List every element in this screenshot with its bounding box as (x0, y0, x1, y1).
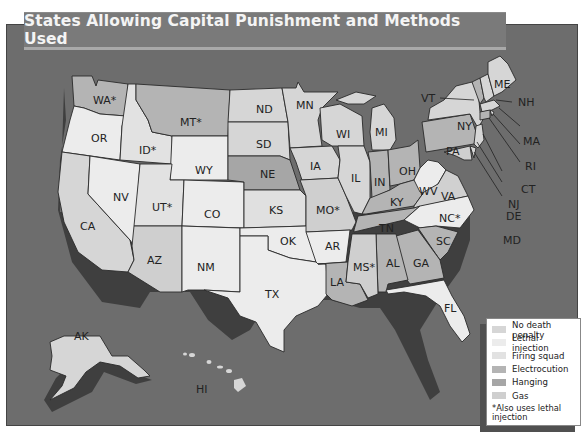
label-NC: NC* (439, 212, 461, 225)
label-MN: MN (296, 99, 314, 112)
label-KS: KS (269, 204, 283, 217)
legend-label: Gas (512, 391, 528, 401)
label-MT: MT* (180, 116, 202, 129)
label-CO: CO (204, 208, 221, 221)
label-NY: NY (457, 120, 472, 133)
swatch-gas (492, 392, 506, 399)
label-WI: WI (336, 128, 350, 141)
label-PA: PA (446, 145, 460, 158)
label-OK: OK (280, 235, 297, 248)
label-ND: ND (256, 103, 273, 116)
label-OH: OH (399, 165, 416, 178)
swatch-firing-squad (492, 352, 506, 359)
label-AR: AR (325, 240, 341, 253)
legend-label: Hanging (512, 377, 548, 387)
label-IL: IL (351, 172, 361, 185)
label-CA: CA (80, 220, 96, 233)
label-IA: IA (310, 160, 321, 173)
label-FL: FL (444, 302, 457, 315)
label-MO: MO* (316, 204, 340, 217)
legend-item-lethal-injection: Lethal injection (492, 336, 576, 349)
legend-label: Electrocution (512, 364, 568, 374)
label-UT: UT* (152, 201, 173, 214)
label-WA: WA* (93, 94, 117, 107)
label-SD: SD (256, 138, 271, 151)
label-IN: IN (374, 176, 385, 189)
label-OR: OR (91, 132, 108, 145)
label-GA: GA (413, 257, 430, 270)
label-DE: DE (506, 210, 521, 223)
state-HI (183, 353, 246, 393)
state-CT (480, 110, 490, 120)
state-IN (368, 150, 390, 198)
label-WY: WY (195, 164, 213, 177)
legend-footnote: *Also uses lethal injection (492, 404, 576, 422)
label-VA: VA (441, 190, 456, 203)
state-NJ (474, 124, 484, 148)
label-AZ: AZ (147, 254, 163, 267)
legend-item-hanging: Hanging (492, 376, 576, 389)
label-NE: NE (260, 168, 275, 181)
state-MI-upper (336, 92, 376, 104)
swatch-no-death-penalty (492, 326, 506, 333)
label-KY: KY (390, 196, 404, 209)
label-MD: MD (503, 234, 521, 247)
legend-item-electrocution: Electrocution (492, 363, 576, 376)
label-WV: WV (419, 185, 438, 198)
label-AK: AK (74, 330, 90, 343)
label-LA: LA (330, 276, 344, 289)
label-NV: NV (113, 191, 129, 204)
legend-item-gas: Gas (492, 389, 576, 402)
label-AL: AL (386, 257, 401, 270)
state-NM (182, 226, 240, 292)
label-MI: MI (375, 126, 388, 139)
label-TN: TN (378, 222, 394, 235)
label-TX: TX (264, 288, 280, 301)
label-MA: MA (523, 135, 540, 148)
swatch-hanging (492, 379, 506, 386)
legend-label: Firing squad (512, 351, 564, 361)
label-MS: MS* (353, 261, 375, 274)
map-legend: No death penalty Lethal injection Firing… (486, 318, 581, 426)
state-RI (490, 110, 494, 116)
legend-item-firing-squad: Firing squad (492, 349, 576, 362)
label-HI: HI (196, 383, 208, 396)
label-CT: CT (521, 183, 536, 196)
swatch-electrocution (492, 366, 506, 373)
legend-label: Lethal injection (512, 333, 576, 353)
swatch-lethal-injection (492, 339, 506, 346)
label-SC: SC (436, 235, 451, 248)
label-NH: NH (518, 96, 535, 109)
label-ME: ME (494, 78, 510, 91)
label-VT: VT (421, 92, 436, 105)
label-ID: ID* (139, 144, 157, 157)
label-RI: RI (525, 160, 536, 173)
label-NM: NM (197, 261, 215, 274)
